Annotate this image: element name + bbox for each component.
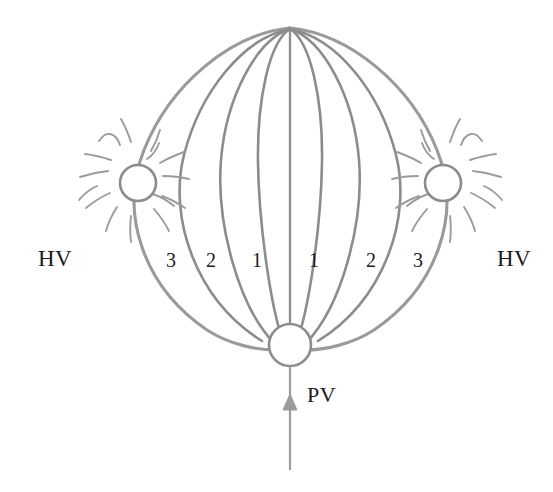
pv-node (269, 324, 311, 366)
rib-3-right (290, 29, 400, 341)
rib-2-left (220, 29, 290, 343)
left-hv-node (120, 165, 156, 201)
pv-arrow-head (283, 394, 297, 410)
rib-label-1-right: 1 (309, 249, 319, 272)
label-left-hv: HV (38, 246, 72, 272)
rib-label-3-right: 3 (413, 249, 423, 272)
balloon-meridians (134, 28, 447, 350)
rib-1-right (290, 29, 322, 344)
figure-root: HV HV PV 3 2 1 1 2 3 (0, 0, 553, 492)
label-pv: PV (307, 382, 336, 408)
rib-label-2-left: 2 (206, 249, 216, 272)
rib-label-3-left: 3 (166, 249, 176, 272)
label-right-hv: HV (497, 246, 531, 272)
anatomical-diagram-svg (0, 0, 553, 492)
rib-label-2-right: 2 (366, 249, 376, 272)
right-hv-node (425, 165, 461, 201)
rib-label-1-left: 1 (252, 249, 262, 272)
rib-1-left (258, 29, 290, 344)
rib-2-right (290, 29, 360, 343)
pv-inflow-arrow (283, 366, 297, 470)
